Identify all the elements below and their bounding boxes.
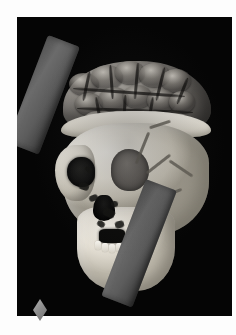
tooth (109, 244, 115, 253)
tooth (102, 243, 108, 252)
render-canvas[interactable] (17, 17, 232, 316)
tooth (95, 241, 101, 250)
figure-title: 3D volume rendering of skull with expose… (0, 0, 1, 1)
figure-page: 3D volume rendering of skull with expose… (0, 0, 236, 335)
